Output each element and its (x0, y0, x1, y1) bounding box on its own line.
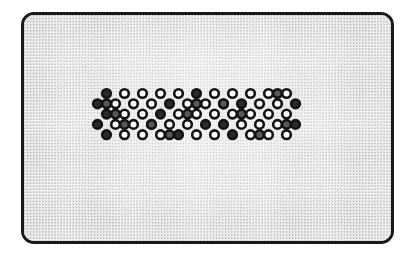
rounded-rectangle-container (21, 12, 394, 244)
stipple-texture-fill (24, 15, 391, 241)
figure-root: Binary close-packed lattice in a rounded… (0, 0, 415, 257)
